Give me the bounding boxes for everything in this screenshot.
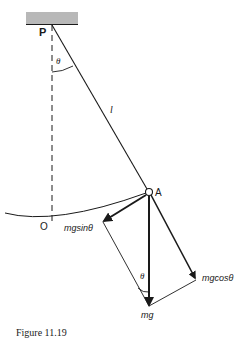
swing-arc [5, 193, 146, 217]
tangential-force-label: mgsinθ [64, 223, 93, 233]
theta-arc-top [52, 66, 73, 72]
ceiling-support [26, 12, 78, 25]
bob-label: A [155, 187, 162, 198]
tangential-force-arrow [104, 195, 146, 221]
weight-label: mg [141, 310, 154, 320]
component-line-left [103, 222, 149, 306]
component-line-right [149, 280, 196, 306]
figure-caption: Figure 11.19 [16, 327, 67, 338]
theta-top-label: θ [56, 56, 61, 66]
bob [146, 189, 153, 196]
pendulum-diagram: P θ l A O mgsinθ θ mgcosθ mg Figure 11.1… [0, 0, 249, 351]
pendulum-string [52, 25, 147, 189]
origin-label: O [40, 221, 48, 232]
radial-force-label: mgcosθ [202, 273, 234, 283]
theta-bottom-label: θ [140, 271, 145, 281]
length-label: l [110, 104, 113, 115]
pivot-label: P [39, 26, 46, 38]
radial-force-arrow [151, 195, 195, 278]
